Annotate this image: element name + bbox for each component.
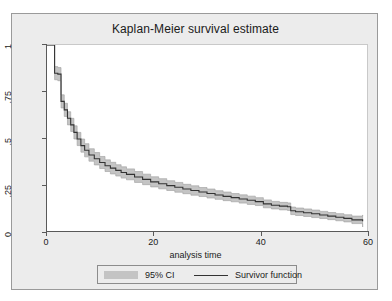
confidence-interval-band [46,45,363,227]
y-tick-mark [42,91,46,92]
x-tick-mark [46,232,47,236]
plot-area [46,44,368,232]
x-axis-title: analysis time [12,250,379,260]
x-tick-label: 40 [249,237,273,247]
y-axis-line [46,44,47,232]
y-tick-mark [42,44,46,45]
ci-band-swatch [104,271,138,279]
x-tick-mark [261,232,262,236]
y-tick-label: .5 [3,138,13,164]
y-tick-label: .25 [3,185,13,211]
survival-curve-svg [46,45,368,233]
legend-label-ci: 95% CI [145,270,175,280]
x-axis-line [46,231,369,232]
y-tick-mark [42,138,46,139]
chart-legend: 95% CI Survivor function [97,265,297,284]
chart-title: Kaplan-Meier survival estimate [12,22,379,36]
legend-entry-survivor: Survivor function [194,266,302,283]
x-tick-label: 0 [34,237,58,247]
ci-band-shape [46,45,363,227]
survivor-line-swatch [194,271,228,279]
y-tick-label: .75 [3,91,13,117]
x-tick-mark [153,232,154,236]
x-tick-label: 20 [141,237,165,247]
x-tick-mark [368,232,369,236]
figure-frame: Kaplan-Meier survival estimate 0.25.5.75… [11,13,378,290]
legend-label-survivor: Survivor function [235,270,302,280]
y-tick-mark [42,185,46,186]
x-tick-label: 60 [356,237,380,247]
legend-entry-ci: 95% CI [104,266,175,283]
y-tick-label: 1 [3,44,13,70]
